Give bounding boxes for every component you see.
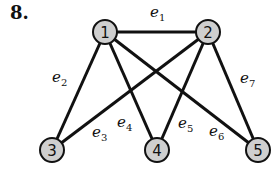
edge-label-e6: e6 xyxy=(209,122,224,142)
vertex-1: 1 xyxy=(93,20,117,44)
edge-label-e2: e2 xyxy=(52,68,67,88)
edge-label-e4: e4 xyxy=(117,113,132,133)
vertex-5: 5 xyxy=(246,138,270,162)
edge-label-e5: e5 xyxy=(178,114,193,134)
vertex-5-label: 5 xyxy=(253,142,263,160)
vertex-4-label: 4 xyxy=(152,142,162,160)
vertex-2-label: 2 xyxy=(203,24,213,42)
nodes: 1 2 3 4 5 xyxy=(40,20,270,162)
vertex-3: 3 xyxy=(40,138,64,162)
edges xyxy=(52,32,258,150)
vertex-1-label: 1 xyxy=(100,24,110,42)
vertex-2: 2 xyxy=(196,20,220,44)
graph-diagram: e1 e2 e3 e4 e5 e6 e7 1 2 3 4 5 xyxy=(0,0,278,170)
edge-label-e7: e7 xyxy=(240,69,255,89)
edge-label-e3: e3 xyxy=(92,123,107,143)
vertex-4: 4 xyxy=(145,138,169,162)
edge-label-e1: e1 xyxy=(150,3,165,23)
vertex-3-label: 3 xyxy=(47,142,57,160)
